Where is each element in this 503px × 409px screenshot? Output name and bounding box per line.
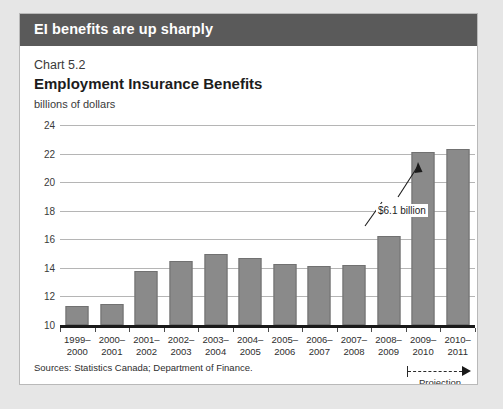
y-axis-tick-label: 18	[44, 205, 55, 216]
x-axis-tick	[475, 328, 476, 332]
projection-dashed-line	[408, 371, 462, 372]
x-axis-tick	[129, 328, 130, 332]
x-axis-tick	[164, 328, 165, 332]
bar[interactable]	[239, 258, 262, 325]
bar-slot	[371, 125, 406, 325]
bar[interactable]	[135, 271, 158, 325]
annotation-label: $6.1 billion	[376, 204, 428, 217]
x-axis-category-label: 2010–2011	[438, 334, 478, 357]
bar[interactable]	[446, 149, 469, 325]
chart-units-label: billions of dollars	[34, 98, 115, 110]
x-axis-tick	[406, 328, 407, 332]
bar-slot	[198, 125, 233, 325]
y-axis-tick-label: 14	[44, 262, 55, 273]
bar-slot	[337, 125, 372, 325]
bar[interactable]	[204, 254, 227, 325]
x-axis-tick	[95, 328, 96, 332]
x-axis-tick	[233, 328, 234, 332]
y-axis-tick-label: 24	[44, 120, 55, 131]
y-axis-tick-label: 22	[44, 148, 55, 159]
x-axis-tick	[440, 328, 441, 332]
x-axis-tick	[268, 328, 269, 332]
projection-arrow-icon	[462, 366, 471, 376]
chart-title: Employment Insurance Benefits	[34, 75, 262, 92]
bar-slot	[440, 125, 475, 325]
bar-slot	[164, 125, 199, 325]
source-note: Sources: Statistics Canada; Department o…	[34, 362, 253, 373]
chart-number: Chart 5.2	[34, 58, 85, 72]
bar[interactable]	[100, 304, 123, 325]
y-axis-tick-label: 10	[44, 320, 55, 331]
bar-slot	[60, 125, 95, 325]
bar[interactable]	[170, 261, 193, 325]
bar[interactable]	[342, 265, 365, 325]
x-axis-tick	[60, 328, 61, 332]
projection-label: Projection	[405, 377, 475, 385]
bar-slot	[233, 125, 268, 325]
x-axis-tick	[302, 328, 303, 332]
bar-series	[60, 125, 475, 325]
x-axis-tick	[337, 328, 338, 332]
bar-slot	[268, 125, 303, 325]
y-axis-tick-label: 12	[44, 291, 55, 302]
bar[interactable]	[273, 264, 296, 325]
x-axis-category-line: 2011	[438, 346, 478, 358]
x-axis-tick	[198, 328, 199, 332]
bar[interactable]	[412, 152, 435, 325]
bar[interactable]	[66, 306, 89, 325]
bar[interactable]	[377, 236, 400, 325]
x-axis-tick	[371, 328, 372, 332]
bar-slot	[95, 125, 130, 325]
bar[interactable]	[308, 266, 331, 325]
bar-slot	[129, 125, 164, 325]
bar-slot	[406, 125, 441, 325]
x-axis-category-line: 2010–	[438, 334, 478, 346]
header-banner: EI benefits are up sharply	[20, 14, 478, 46]
banner-title: EI benefits are up sharply	[34, 21, 213, 37]
y-axis-tick-label: 20	[44, 177, 55, 188]
bar-slot	[302, 125, 337, 325]
y-axis-tick-label: 16	[44, 234, 55, 245]
chart-card: EI benefits are up sharply Chart 5.2 Emp…	[19, 13, 478, 385]
projection-marker: Projection	[407, 366, 478, 385]
